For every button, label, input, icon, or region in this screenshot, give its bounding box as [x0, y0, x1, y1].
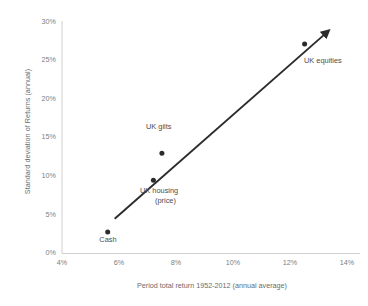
cash-label: Cash [84, 235, 132, 245]
data-point-uk-housing [151, 178, 156, 183]
data-point-cash [105, 229, 110, 234]
uk-housing-price-label: (price) [155, 196, 176, 206]
uk-gilts-label: UK gilts [146, 122, 171, 132]
data-point-uk-equities [302, 42, 307, 47]
uk-housing-label: UK housing [140, 186, 178, 196]
plot-area [0, 0, 368, 306]
uk-equities-label: UK equities [304, 56, 342, 66]
data-point-uk-gilts [159, 151, 164, 156]
scatter-chart: Standard deviation of Returns (annual) P… [0, 0, 368, 306]
